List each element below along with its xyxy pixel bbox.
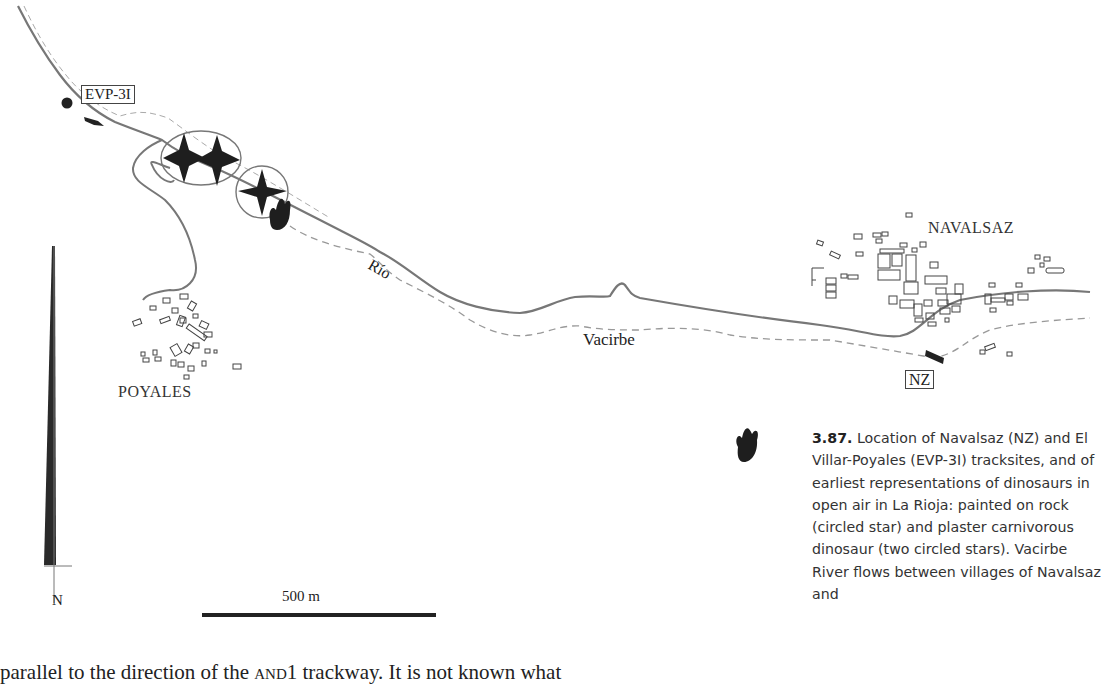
river-line [290, 226, 1090, 358]
site-label-evp: EVP-3I [81, 85, 135, 104]
body-text-line: parallel to the direction of the and1 tr… [0, 660, 760, 685]
body-text-trackway-code: and1 [254, 660, 297, 684]
figure-caption: 3.87. Location of Navalsaz (NZ) and El V… [812, 427, 1102, 605]
nz-tracksite-marker [925, 350, 944, 364]
caption-number: 3.87. [812, 430, 852, 446]
body-text-before: parallel to the direction of the [0, 660, 254, 684]
site-label-nz: NZ [905, 370, 934, 389]
north-label: N [52, 592, 63, 609]
river-label-rio: Río [365, 256, 394, 282]
evp-site-dot [62, 98, 73, 109]
scale-bar-label: 500 m [282, 588, 320, 605]
poyales-buildings [133, 294, 241, 379]
village-label-navalsaz: NAVALSAZ [928, 219, 1014, 237]
footprint-legend-icon [736, 428, 758, 462]
north-arrow-icon [44, 246, 72, 603]
footprint-icon [269, 199, 290, 230]
evp-tracksite-marker [84, 117, 104, 126]
village-label-poyales: POYALES [118, 383, 192, 401]
caption-text: Location of Navalsaz (NZ) and El Villar-… [812, 430, 1101, 602]
body-text-after: trackway. It is not known what [297, 660, 561, 684]
scale-bar [202, 613, 436, 617]
two-circled-stars-symbol [161, 131, 241, 186]
river-label-vacirbe: Vacirbe [583, 330, 635, 349]
road-line-inner [24, 6, 330, 218]
road-line [18, 6, 1090, 336]
